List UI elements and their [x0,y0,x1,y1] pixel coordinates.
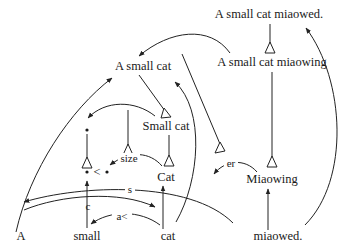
edge-label-s: s [128,183,132,195]
dot-right [105,170,108,173]
node-np: A small cat [115,59,172,73]
node-nbar: Small cat [143,119,190,133]
arrow-progressive-to-np [139,34,230,56]
arrow-cat-to-np [175,82,196,222]
triangle-icon [164,155,174,166]
triangle-icon [265,42,275,53]
triangle-icon [215,142,225,153]
edge-label-size: size [120,152,137,164]
less-than-sign: < [93,165,100,179]
triangle-icon [161,108,171,118]
arrow-a-to-np [16,78,112,232]
dot-top [85,128,88,131]
word-miaowed: miaowed. [254,229,303,243]
word-small: small [73,229,101,243]
triangle-icon [267,156,277,167]
arrow-nbar-to-dot [88,104,155,118]
word-a: A [16,229,25,243]
triangle-icon [82,157,92,168]
node-top-sentence: A small cat miaowed. [215,7,323,21]
node-cat-concept: Cat [157,170,175,184]
word-cat: cat [161,229,176,243]
edge-label-er: er [227,157,236,169]
node-progressive: A small cat miaowing [217,55,327,69]
edge-label-a-lt: a< [116,210,127,222]
derivation-diagram: A small cat miaowed. A small cat miaowin… [0,0,363,251]
link-np-nbar [139,75,165,111]
dot-left [85,170,88,173]
edge-label-c: c [86,200,91,212]
node-miaowing-concept: Miaowing [246,172,298,186]
